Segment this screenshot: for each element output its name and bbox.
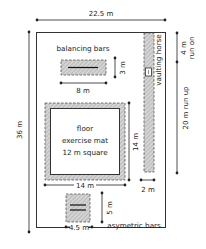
floor-mat-line2: exercise mat [62,136,108,145]
beam-width-label: 8 m [76,87,90,95]
run-dimensions: 4 m run on 20 m run up [177,33,196,173]
floor-exercise-mat: floor exercise mat 12 m square 14 m 14 m [45,103,140,190]
run-on-distance-label: 4 m [180,41,188,55]
bars-depth-label: 5 m [106,201,114,215]
hall-length-label: 36 m [16,121,24,139]
asymmetric-bars-label: asymetric bars [107,221,161,230]
beam-depth-label: 3 m [119,61,127,75]
runway-width-label: 2 m [141,186,155,194]
mat-horizontal-label: 14 m [76,182,94,190]
mat-vertical-label: 14 m [132,133,140,151]
floor-mat-line1: floor [77,124,93,133]
hall-length-dimension: 36 m [16,32,29,232]
run-on-label: run on [188,37,196,60]
asymmetric-bars-area: 5 m 4.5 m asymetric bars [66,193,161,232]
hall-width-label: 22.5 m [89,10,114,18]
vaulting-horse-label: vaulting horse [154,34,163,86]
run-up-label: 20 m run up [182,86,190,130]
gym-layout-diagram: 22.5 m 36 m vaulting horse 4 m run on 20… [0,0,206,249]
balancing-bars-area: balancing bars 3 m 8 m [57,44,127,95]
floor-mat-line3: 12 m square [62,148,108,157]
hall-width-dimension: 22.5 m [37,10,165,20]
runway-width-dimension: 2 m [141,180,155,194]
bars-width-label: 4.5 m [69,224,89,232]
vaulting-horse-runway: vaulting horse [144,33,163,172]
balancing-bars-label: balancing bars [57,44,110,53]
